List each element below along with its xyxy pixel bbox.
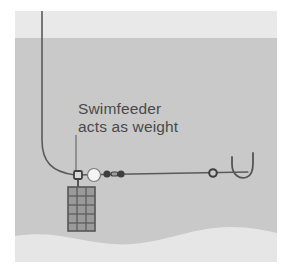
annotation-line-1: Swimfeeder <box>78 100 178 118</box>
diagram-canvas <box>0 0 293 277</box>
barrel-swivel-bead-left <box>103 170 110 177</box>
swimfeeder-rig-diagram: Swimfeeder acts as weight <box>0 0 293 277</box>
swimfeeder-cage <box>68 187 95 231</box>
stop-bead <box>88 169 101 182</box>
hook-link-bead <box>209 169 217 177</box>
barrel-swivel-bead-right <box>117 170 124 177</box>
feeder-swivel <box>74 171 82 179</box>
annotation-line-2: acts as weight <box>78 118 178 136</box>
barrel-swivel-body <box>111 172 118 176</box>
sky-band <box>15 11 277 38</box>
annotation-label: Swimfeeder acts as weight <box>78 100 178 135</box>
scene-group <box>15 11 277 262</box>
